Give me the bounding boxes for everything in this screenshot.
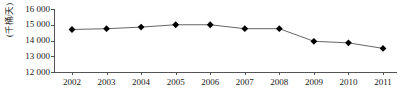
data-series <box>54 9 397 72</box>
x-tick-mark <box>176 72 177 75</box>
y-tick-mark <box>51 72 54 73</box>
data-point-marker <box>69 26 76 33</box>
data-point-marker <box>380 45 387 52</box>
x-tick-label: 2011 <box>363 76 403 88</box>
data-point-marker <box>310 38 317 45</box>
x-tick-mark <box>72 72 73 75</box>
x-axis-line <box>54 72 397 73</box>
y-tick-label: 12 000 <box>25 68 50 77</box>
y-tick-label: 15 000 <box>25 20 50 29</box>
data-point-marker <box>241 25 248 32</box>
data-point-marker <box>276 25 283 32</box>
y-tick-label: 14 000 <box>25 36 50 45</box>
y-tick-mark <box>51 41 54 42</box>
x-tick-mark <box>107 72 108 75</box>
data-point-marker <box>207 21 214 28</box>
y-tick-label: 16 000 <box>25 5 50 14</box>
x-tick-mark <box>141 72 142 75</box>
data-point-marker <box>172 21 179 28</box>
y-tick-mark <box>51 56 54 57</box>
x-tick-mark <box>383 72 384 75</box>
line-chart: (千桶/天) 12 00013 00014 00015 00016 000 20… <box>0 0 407 103</box>
plot-area <box>54 9 397 72</box>
y-axis-tick-labels: 12 00013 00014 00015 00016 000 <box>14 0 52 103</box>
y-tick-mark <box>51 9 54 10</box>
x-tick-mark <box>245 72 246 75</box>
data-point-marker <box>138 24 145 31</box>
x-tick-mark <box>279 72 280 75</box>
x-tick-mark <box>314 72 315 75</box>
series-line <box>72 25 383 49</box>
x-tick-mark <box>210 72 211 75</box>
y-tick-mark <box>51 25 54 26</box>
data-point-marker <box>103 25 110 32</box>
y-tick-label: 13 000 <box>25 52 50 61</box>
x-tick-mark <box>348 72 349 75</box>
data-point-marker <box>345 39 352 46</box>
x-axis-tick-labels: 2002200320042005200620072008200920102011 <box>54 76 397 90</box>
series-markers <box>69 21 387 51</box>
